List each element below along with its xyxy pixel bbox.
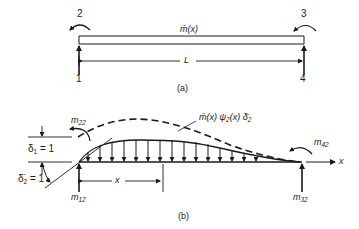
dof-3-label: 3 (301, 9, 307, 19)
length-label: L (184, 56, 189, 65)
delta2-label: δ̈2 = 1 (18, 174, 44, 186)
caption-b: (b) (178, 212, 189, 221)
x-dimension-label: x (115, 176, 120, 185)
m32-label: m32 (293, 193, 308, 204)
deflected-shape-dashed (78, 119, 300, 162)
m22-label: m22 (71, 116, 86, 127)
m42-label: m42 (314, 138, 329, 149)
m12-label: m12 (71, 193, 86, 204)
dof-1-label: 1 (76, 74, 82, 84)
m42-moment-arrow (290, 148, 312, 154)
m22-moment-arrow (70, 129, 90, 142)
dof-3-moment-arrow (294, 26, 316, 32)
delta1-label: δ1 = 1 (28, 144, 54, 156)
inertia-label: m̄(x) ψ2(x) δ̈2 (199, 113, 251, 124)
beam-a (79, 36, 304, 44)
x-axis-label: x (339, 157, 344, 166)
caption-a: (a) (177, 84, 188, 93)
mass-label: m̄(x) (180, 25, 198, 34)
dof-4-label: 4 (300, 74, 306, 84)
inertia-label-leader (178, 121, 196, 131)
dof-2-label: 2 (77, 9, 83, 19)
dof-2-moment-arrow (70, 25, 90, 30)
